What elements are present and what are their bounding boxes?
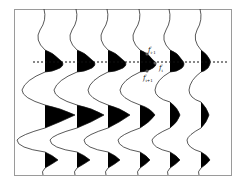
- trace-5: [152, 9, 184, 175]
- sample-point-next: [146, 70, 149, 73]
- trace-6: [187, 9, 210, 175]
- label-f-curr: fi: [158, 64, 164, 73]
- label-f-prev: fi-1: [147, 46, 156, 55]
- frame: [15, 10, 232, 176]
- trace-3: [84, 9, 130, 175]
- seismic-wiggle-diagram: fi-1 fi fi+1: [0, 0, 244, 186]
- label-f-next: fi+1: [142, 74, 153, 83]
- trace-2: [50, 9, 104, 175]
- trace-4: [118, 9, 156, 175]
- sample-point-curr: [154, 62, 157, 65]
